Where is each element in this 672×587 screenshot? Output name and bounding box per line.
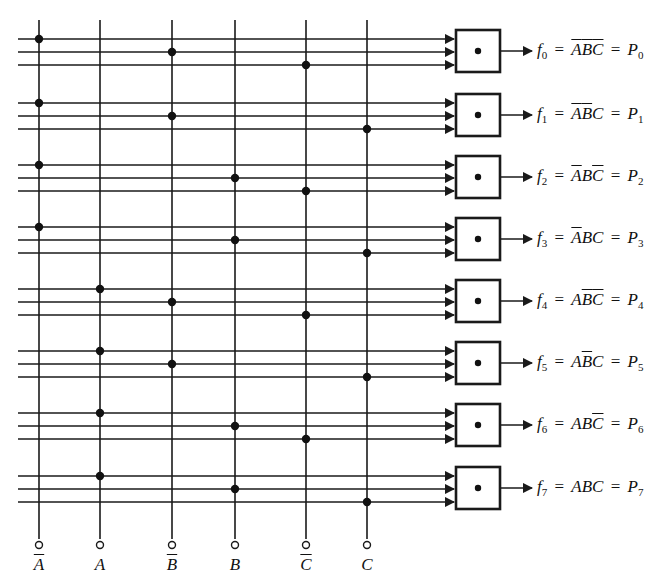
equals-sign: = — [547, 477, 571, 496]
input-terminal-nB[interactable] — [169, 542, 176, 549]
connection-dot-row7-C[interactable] — [363, 498, 371, 506]
input-label-nB: B — [167, 556, 177, 573]
connection-dot-row2-B[interactable] — [231, 174, 239, 182]
equals-sign: = — [547, 352, 571, 371]
output-expression-2: f2 = ABC = P2 — [537, 167, 643, 187]
and-gate-dot-5 — [475, 360, 481, 366]
input-label-nA: A — [34, 556, 44, 573]
input-terminal-nC[interactable] — [303, 542, 310, 549]
connection-dot-row1-nA[interactable] — [35, 99, 43, 107]
connection-dot-row4-nC[interactable] — [302, 311, 310, 319]
connection-dot-row2-nA[interactable] — [35, 161, 43, 169]
product-term-6: ABC — [571, 414, 603, 433]
equals-sign: = — [547, 228, 571, 247]
and-gate-dot-6 — [475, 422, 481, 428]
connection-dot-row3-B[interactable] — [231, 236, 239, 244]
product-term-4: ABC — [571, 290, 603, 309]
output-f-name-7: f7 — [537, 477, 547, 496]
connection-dot-row5-nB[interactable] — [168, 360, 176, 368]
output-expression-6: f6 = ABC = P6 — [537, 415, 643, 435]
output-expression-0: f0 = ABC = P0 — [537, 41, 643, 61]
input-terminal-B[interactable] — [232, 542, 239, 549]
equals-sign: = — [547, 414, 571, 433]
equals-sign: = — [603, 166, 627, 185]
output-p-name-2: P2 — [628, 166, 644, 185]
connection-dots — [35, 35, 371, 506]
and-gate-dot-0 — [475, 48, 481, 54]
and-gate-dot-1 — [475, 112, 481, 118]
output-expression-5: f5 = ABC = P5 — [537, 353, 643, 373]
equals-sign: = — [547, 290, 571, 309]
connection-dot-row7-B[interactable] — [231, 485, 239, 493]
output-expression-3: f3 = ABC = P3 — [537, 229, 643, 249]
equals-sign: = — [603, 477, 627, 496]
and-gate-dot-2 — [475, 174, 481, 180]
output-f-name-3: f3 — [537, 228, 547, 247]
product-row-wires — [18, 39, 454, 502]
input-label-B: B — [230, 556, 240, 573]
output-expression-7: f7 = ABC = P7 — [537, 478, 643, 498]
equals-sign: = — [547, 166, 571, 185]
connection-dot-row0-nC[interactable] — [302, 61, 310, 69]
product-term-1: ABC — [571, 104, 603, 123]
equals-sign: = — [603, 352, 627, 371]
output-p-name-0: P0 — [628, 40, 644, 59]
product-term-2: ABC — [571, 166, 603, 185]
connection-dot-row1-C[interactable] — [363, 125, 371, 133]
input-label-A: A — [95, 556, 105, 573]
connection-dot-row7-A[interactable] — [96, 472, 104, 480]
connection-dot-row1-nB[interactable] — [168, 112, 176, 120]
equals-sign: = — [603, 104, 627, 123]
connection-dot-row2-nC[interactable] — [302, 187, 310, 195]
logic-diagram-canvas: AABBCC f0 = ABC = P0f1 = ABC = P1f2 = AB… — [0, 0, 672, 587]
product-term-7: ABC — [571, 477, 603, 496]
connection-dot-row0-nA[interactable] — [35, 35, 43, 43]
connection-dot-row6-A[interactable] — [96, 409, 104, 417]
and-gate-dot-3 — [475, 236, 481, 242]
equals-sign: = — [547, 40, 571, 59]
input-terminal-C[interactable] — [364, 542, 371, 549]
output-p-name-6: P6 — [628, 414, 644, 433]
output-p-name-1: P1 — [628, 104, 644, 123]
connection-dot-row6-B[interactable] — [231, 422, 239, 430]
equals-sign: = — [603, 414, 627, 433]
output-f-name-5: f5 — [537, 352, 547, 371]
output-p-name-5: P5 — [628, 352, 644, 371]
connection-dot-row4-nB[interactable] — [168, 298, 176, 306]
output-expression-4: f4 = ABC = P4 — [537, 291, 643, 311]
output-p-name-4: P4 — [628, 290, 644, 309]
equals-sign: = — [603, 40, 627, 59]
product-term-3: ABC — [571, 228, 603, 247]
input-terminal-A[interactable] — [97, 542, 104, 549]
output-f-name-1: f1 — [537, 104, 547, 123]
equals-sign: = — [603, 228, 627, 247]
input-label-nC: C — [300, 556, 311, 573]
connection-dot-row3-nA[interactable] — [35, 223, 43, 231]
product-term-5: ABC — [571, 352, 603, 371]
connection-dot-row6-nC[interactable] — [302, 435, 310, 443]
output-f-name-4: f4 — [537, 290, 547, 309]
output-p-name-7: P7 — [628, 477, 644, 496]
output-expression-1: f1 = ABC = P1 — [537, 105, 643, 125]
connection-dot-row5-A[interactable] — [96, 347, 104, 355]
equals-sign: = — [603, 290, 627, 309]
output-f-name-2: f2 — [537, 166, 547, 185]
connection-dot-row3-C[interactable] — [363, 249, 371, 257]
input-label-C: C — [361, 556, 372, 573]
output-f-name-6: f6 — [537, 414, 547, 433]
output-f-name-0: f0 — [537, 40, 547, 59]
connection-dot-row5-C[interactable] — [363, 373, 371, 381]
output-p-name-3: P3 — [628, 228, 644, 247]
and-gate-dot-7 — [475, 485, 481, 491]
input-terminal-nA[interactable] — [36, 542, 43, 549]
connection-dot-row4-A[interactable] — [96, 285, 104, 293]
and-gate-boxes — [456, 30, 532, 509]
equals-sign: = — [547, 104, 571, 123]
product-term-0: ABC — [571, 40, 603, 59]
and-gate-dot-4 — [475, 298, 481, 304]
input-terminals — [36, 542, 371, 549]
input-vertical-lines — [39, 20, 367, 539]
connection-dot-row0-nB[interactable] — [168, 48, 176, 56]
